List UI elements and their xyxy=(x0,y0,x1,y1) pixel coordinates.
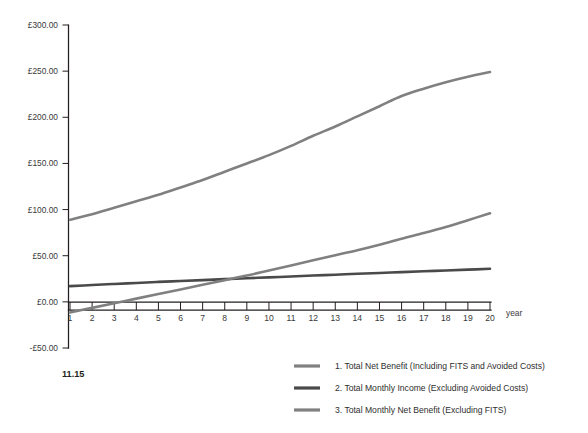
y-axis-label-group: -£50.00£0.00£50.00£100.00£150.00£200.00£… xyxy=(28,20,59,353)
figure-container: -£50.00£0.00£50.00£100.00£150.00£200.00£… xyxy=(0,0,588,433)
y-axis-tick-label: -£50.00 xyxy=(30,343,59,353)
x-axis-tick-label: 7 xyxy=(200,313,205,323)
y-axis-tick-label: £50.00 xyxy=(32,251,58,261)
x-axis-tick-label: 8 xyxy=(222,313,227,323)
x-axis-tick-label: 4 xyxy=(134,313,139,323)
x-axis-tick-label: 17 xyxy=(419,313,429,323)
chart-legend: 1. Total Net Benefit (Including FITS and… xyxy=(294,361,545,415)
y-axis-tick-group xyxy=(63,25,69,348)
x-axis-title: year xyxy=(506,308,523,318)
x-axis-label-group: 1234567891011121314151617181920 xyxy=(68,313,495,323)
y-axis-tick-label: £300.00 xyxy=(28,20,59,30)
series-line-1 xyxy=(70,72,490,220)
x-axis-tick-label: 3 xyxy=(112,313,117,323)
x-axis-tick-label: 18 xyxy=(441,313,451,323)
x-axis-tick-label: 11 xyxy=(287,313,296,323)
y-axis-tick-label: £100.00 xyxy=(28,205,59,215)
series-line-2 xyxy=(70,269,490,286)
legend-label-3: 3. Total Monthly Net Benefit (Excluding … xyxy=(335,405,506,415)
x-axis-tick-label: 13 xyxy=(330,313,340,323)
series-group xyxy=(70,72,490,312)
x-axis-tick-label: 20 xyxy=(485,313,495,323)
x-axis-tick-group xyxy=(70,302,490,310)
y-axis-tick-label: £0.00 xyxy=(37,297,58,307)
x-axis-tick-label: 2 xyxy=(90,313,95,323)
y-axis-tick-label: £150.00 xyxy=(28,158,59,168)
legend-label-1: 1. Total Net Benefit (Including FITS and… xyxy=(335,361,545,371)
x-axis-tick-label: 12 xyxy=(308,313,318,323)
x-axis-tick-label: 16 xyxy=(397,313,407,323)
x-axis-tick-label: 15 xyxy=(375,313,385,323)
y-axis-tick-label: £200.00 xyxy=(28,112,59,122)
x-axis-tick-label: 5 xyxy=(156,313,161,323)
line-chart: -£50.00£0.00£50.00£100.00£150.00£200.00£… xyxy=(0,0,588,433)
x-axis-tick-label: 6 xyxy=(178,313,183,323)
x-axis-tick-label: 14 xyxy=(353,313,363,323)
figure-caption: 11.15 xyxy=(62,369,84,379)
x-axis-tick-label: 1 xyxy=(68,313,73,323)
series-line-3 xyxy=(70,213,490,312)
x-axis-tick-label: 10 xyxy=(264,313,274,323)
x-axis-tick-label: 9 xyxy=(244,313,249,323)
legend-label-2: 2. Total Monthly Income (Excluding Avoid… xyxy=(335,383,528,393)
y-axis-tick-label: £250.00 xyxy=(28,66,59,76)
x-axis-tick-label: 19 xyxy=(463,313,473,323)
